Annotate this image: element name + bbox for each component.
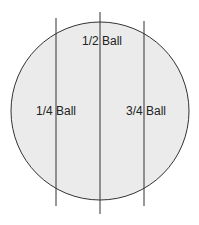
ball-hit-fraction-diagram: 1/2 Ball 1/4 Ball 3/4 Ball: [0, 0, 199, 225]
three-quarter-ball-label: 3/4 Ball: [126, 104, 166, 118]
half-ball-label: 1/2 Ball: [82, 34, 122, 48]
diagram-canvas: 1/2 Ball 1/4 Ball 3/4 Ball: [0, 0, 199, 225]
quarter-ball-label: 1/4 Ball: [36, 104, 76, 118]
